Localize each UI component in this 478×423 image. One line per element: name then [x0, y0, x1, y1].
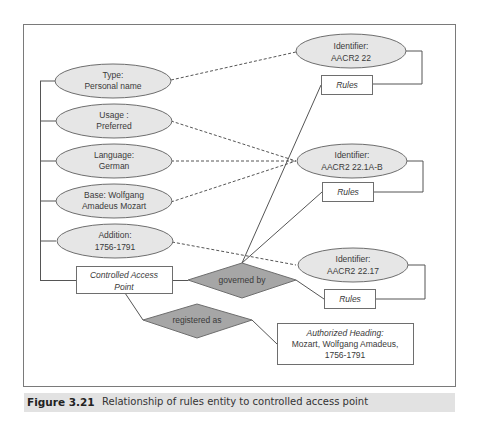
- governed-by-label: governed by: [219, 275, 267, 285]
- figure-number: Figure 3.21: [27, 396, 95, 408]
- rules-entity-3: Rules: [325, 290, 376, 309]
- identifier-2-label: Identifier:: [335, 150, 370, 160]
- governed-by-relationship: governed by: [188, 263, 296, 298]
- dashed-connectors: [171, 52, 296, 265]
- figure-caption: Figure 3.21 Relationship of rules entity…: [24, 393, 455, 412]
- rules-3-label: Rules: [339, 294, 361, 304]
- identifier-aacr2-22-1a-b: Identifier: AACR2 22.1A-B: [297, 144, 407, 178]
- attribute-type-label: Type:: [103, 70, 124, 80]
- attribute-base-label: Base: Wolfgang: [84, 190, 144, 200]
- rules-2-label: Rules: [337, 187, 359, 197]
- identifier-1-label: Identifier:: [334, 41, 369, 51]
- attribute-type: Type: Personal name: [55, 64, 171, 98]
- attribute-usage-value: Preferred: [96, 121, 132, 131]
- identifier-aacr2-22-17: Identifier: AACR2 22.17: [298, 248, 408, 282]
- attribute-language: Language: German: [56, 144, 172, 178]
- er-diagram: Type: Personal name Usage : Preferred La…: [0, 0, 478, 423]
- identifier-3-value: AACR2 22.17: [327, 266, 379, 276]
- attribute-base: Base: Wolfgang Amadeus Mozart: [56, 184, 172, 218]
- identifier-aacr2-22: Identifier: AACR2 22: [296, 34, 406, 68]
- authorized-heading-entity: Authorized Heading: Mozart, Wolfgang Ama…: [278, 324, 414, 365]
- authorized-heading-name: Mozart, Wolfgang Amadeus,: [292, 339, 399, 349]
- rules-1-label: Rules: [336, 80, 358, 90]
- attribute-type-value: Personal name: [84, 81, 141, 91]
- attribute-language-value: German: [99, 161, 130, 171]
- rules-entity-2: Rules: [323, 183, 374, 202]
- identifier-2-value: AACR2 22.1A-B: [321, 162, 383, 172]
- authorized-heading-dates: 1756-1791: [325, 350, 366, 360]
- rules-entity-1: Rules: [322, 76, 373, 95]
- attribute-language-label: Language:: [94, 150, 134, 160]
- authorized-heading-title: Authorized Heading:: [305, 328, 384, 338]
- identifier-3-label: Identifier:: [336, 254, 371, 264]
- attribute-usage-label: Usage :: [99, 110, 128, 120]
- registered-as-relationship: registered as: [143, 304, 252, 338]
- controlled-access-point-entity: Controlled Access Point: [77, 267, 173, 294]
- attribute-usage: Usage : Preferred: [56, 104, 172, 138]
- attribute-base-value: Amadeus Mozart: [82, 201, 147, 211]
- controlled-access-point-line1: Controlled Access: [90, 270, 159, 280]
- attribute-addition: Addition: 1756-1791: [57, 224, 173, 258]
- identifier-1-value: AACR2 22: [331, 53, 371, 63]
- controlled-access-point-line2: Point: [114, 282, 134, 292]
- attribute-addition-value: 1756-1791: [95, 242, 136, 252]
- attribute-addition-label: Addition:: [98, 230, 131, 240]
- registered-as-label: registered as: [172, 315, 221, 325]
- figure-caption-text: Relationship of rules entity to controll…: [102, 396, 368, 407]
